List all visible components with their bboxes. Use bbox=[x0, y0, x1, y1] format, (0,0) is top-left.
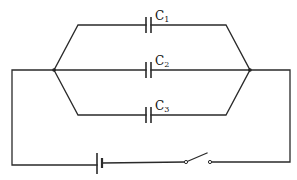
branch-c2: C2 bbox=[54, 54, 250, 78]
capacitor-c2-label: C2 bbox=[155, 54, 169, 69]
wire-c3-left bbox=[54, 70, 146, 115]
capacitor-c1-label: C1 bbox=[155, 9, 169, 24]
switch-contact-right bbox=[208, 160, 211, 163]
switch-contact-left bbox=[184, 160, 187, 163]
battery-icon bbox=[97, 153, 102, 174]
branch-c1: C1 bbox=[54, 9, 250, 70]
switch-open-icon bbox=[184, 153, 211, 164]
wire-battery-to-switch bbox=[102, 162, 185, 163]
circuit-diagram: C1 C2 C3 bbox=[0, 0, 297, 180]
wire-right-outer bbox=[211, 70, 290, 162]
branch-c3: C3 bbox=[54, 70, 250, 123]
capacitor-c3-label: C3 bbox=[155, 99, 169, 114]
wire-left-outer bbox=[12, 70, 97, 165]
wire-c1-left bbox=[54, 25, 146, 70]
parallel-capacitor-network: C1 C2 C3 bbox=[52, 9, 252, 123]
switch-lever bbox=[186, 153, 207, 162]
